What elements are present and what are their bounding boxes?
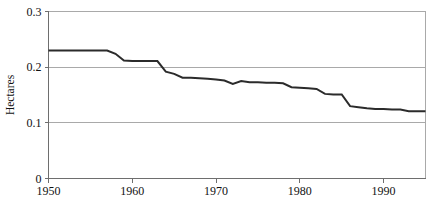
chart-container: 19501960197019801990 00.10.20.3 Hectares	[0, 0, 433, 207]
x-tick-label-1950: 1950	[37, 184, 61, 198]
x-tick-label-1990: 1990	[372, 184, 396, 198]
y-axis-title: Hectares	[4, 74, 16, 115]
plot-frame	[49, 12, 426, 179]
y-tick-labels-group: 00.10.20.3	[27, 5, 42, 186]
x-tick-label-1960: 1960	[120, 184, 144, 198]
x-tick-marks-group	[49, 179, 384, 183]
y-tick-label-0_3: 0.3	[27, 5, 42, 19]
y-tick-label-0: 0	[36, 172, 42, 186]
x-tick-label-1970: 1970	[204, 184, 228, 198]
y-axis-title-group: Hectares	[4, 74, 16, 115]
data-series-group	[49, 50, 426, 111]
gridlines-group	[49, 12, 426, 179]
line-chart: 19501960197019801990 00.10.20.3 Hectares	[0, 0, 433, 207]
y-tick-label-0_1: 0.1	[27, 116, 42, 130]
y-tick-label-0_2: 0.2	[27, 60, 42, 74]
x-tick-labels-group: 19501960197019801990	[37, 184, 396, 198]
series-line-0	[49, 50, 426, 111]
x-tick-label-1980: 1980	[288, 184, 312, 198]
